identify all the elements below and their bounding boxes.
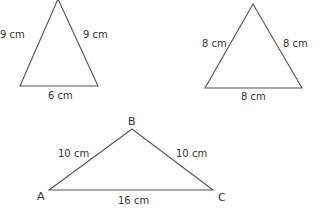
triangle-1-base-label: 6 cm	[48, 90, 73, 101]
triangle-equilateral-8: 8 cm 8 cm 8 cm	[202, 4, 308, 102]
triangle-1-right-side-label: 9 cm	[83, 29, 108, 40]
triangle-2-right-side-label: 8 cm	[283, 38, 308, 49]
triangle-2-base-label: 8 cm	[241, 91, 266, 102]
vertex-label-B: B	[128, 115, 136, 128]
triangle-3-right-side-label: 10 cm	[176, 148, 207, 159]
triangles-diagram: 9 cm 9 cm 6 cm 8 cm 8 cm 8 cm B A C 10 c…	[0, 0, 334, 213]
triangle-3-base-label: 16 cm	[118, 195, 149, 206]
triangle-1-left-side-label: 9 cm	[0, 29, 25, 40]
triangle-1-outline	[20, 0, 98, 86]
triangle-3-left-side-label: 10 cm	[58, 148, 89, 159]
triangle-3-outline	[49, 129, 213, 190]
vertex-label-A: A	[37, 190, 45, 203]
vertex-label-C: C	[218, 191, 226, 204]
triangle-ABC: B A C 10 cm 10 cm 16 cm	[37, 115, 226, 206]
triangle-isosceles-9-9-6: 9 cm 9 cm 6 cm	[0, 0, 108, 101]
triangle-2-left-side-label: 8 cm	[202, 38, 227, 49]
